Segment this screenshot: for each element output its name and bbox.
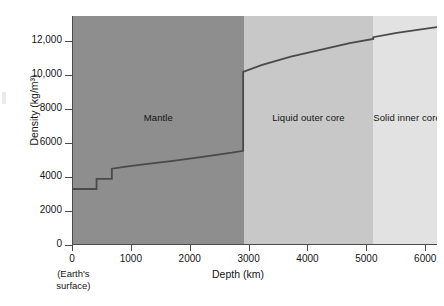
x-tick-label: 6000	[414, 253, 436, 264]
y-tick-label: 6000	[40, 136, 62, 147]
y-tick-label: 0	[56, 238, 62, 249]
earth-surface-annotation-line2: surface)	[56, 280, 90, 292]
x-tick-mark	[307, 245, 308, 251]
earth-surface-annotation-line1: (Earth's	[56, 268, 90, 280]
y-tick-mark	[65, 211, 72, 212]
x-tick-label: 1000	[120, 253, 142, 264]
density-curve	[73, 16, 437, 245]
x-tick-mark	[190, 245, 191, 251]
y-tick-mark	[65, 109, 72, 110]
x-tick-mark	[425, 245, 426, 251]
x-tick-label: 2000	[179, 253, 201, 264]
y-tick-label: 2000	[40, 204, 62, 215]
x-tick-mark	[131, 245, 132, 251]
x-tick-label: 3000	[237, 253, 259, 264]
y-tick-label: 4000	[40, 170, 62, 181]
x-tick-label: 4000	[296, 253, 318, 264]
plot-area: Mantle Liquid outer core Solid inner cor…	[72, 16, 437, 245]
x-tick-mark	[249, 245, 250, 251]
x-axis-title: Depth (km)	[212, 268, 264, 280]
density-depth-chart: Mantle Liquid outer core Solid inner cor…	[0, 0, 444, 306]
y-tick-mark	[65, 41, 72, 42]
x-tick-mark	[366, 245, 367, 251]
x-tick-label: 0	[69, 253, 75, 264]
y-tick-mark	[65, 143, 72, 144]
y-tick-mark	[65, 75, 72, 76]
x-tick-label: 5000	[355, 253, 377, 264]
page-edge-artifact	[2, 92, 6, 104]
earth-surface-annotation: (Earth's surface)	[56, 268, 90, 291]
y-tick-mark	[65, 245, 72, 246]
y-tick-mark	[65, 177, 72, 178]
x-tick-mark	[72, 245, 73, 251]
y-tick-label: 8000	[40, 102, 62, 113]
y-axis-title: Density (kg/m³)	[28, 40, 40, 180]
